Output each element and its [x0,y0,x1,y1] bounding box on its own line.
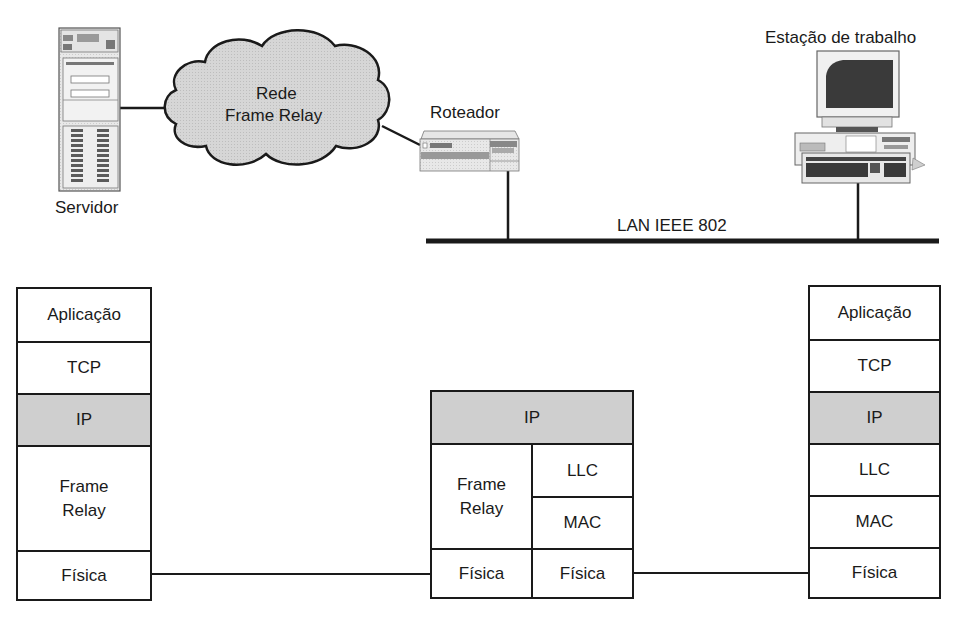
layer-frame-relay: Frame Relay [432,443,533,548]
layer-tcp: TCP [18,341,150,393]
layer-label: Frame Relay [59,475,108,523]
layer-label: TCP [858,354,892,378]
lan-label: LAN IEEE 802 [617,216,727,236]
server-tower-icon [59,28,120,191]
layer-ip: IP [18,393,150,445]
layer-label: Aplicação [47,303,121,327]
layer-application: Aplicação [810,287,939,339]
layer-mac: MAC [533,496,632,548]
layer-application: Aplicação [18,289,150,341]
layer-label: Física [61,564,106,588]
router-icon [420,131,519,171]
server-protocol-stack: Aplicação TCP IP Frame Relay Física [16,287,152,601]
workstation-icon [795,51,925,183]
workstation-protocol-stack: Aplicação TCP IP LLC MAC Física [808,285,941,599]
layer-label: LLC [859,458,890,482]
cloud-router-link [382,126,420,145]
layer-mac: MAC [810,495,939,547]
workstation-label: Estação de trabalho [765,28,916,48]
layer-tcp: TCP [810,339,939,391]
layer-label: IP [866,406,882,430]
layer-label: Aplicação [838,301,912,325]
layer-physical-fr: Física [432,548,533,597]
layer-label: Física [560,562,605,586]
layer-label: TCP [67,356,101,380]
layer-label: Física [459,562,504,586]
layer-physical: Física [810,547,939,597]
layer-label: IP [524,406,540,430]
cloud-label-line2: Frame Relay [225,106,322,126]
layer-physical: Física [18,550,150,599]
layer-physical-lan: Física [533,548,632,597]
layer-label: MAC [856,510,894,534]
server-label: Servidor [55,198,118,218]
layer-ip: IP [810,391,939,443]
layer-label: MAC [564,511,602,535]
router-label: Roteador [430,103,500,123]
layer-label: Frame Relay [457,473,506,521]
layer-frame-relay: Frame Relay [18,445,150,550]
layer-label: Física [852,561,897,585]
layer-llc: LLC [810,443,939,495]
layer-ip: IP [432,392,632,443]
cloud-label-line1: Rede [256,84,297,104]
layer-llc: LLC [533,443,632,496]
layer-label: LLC [567,459,598,483]
layer-label: IP [76,408,92,432]
router-protocol-stack: IP Frame Relay Física LLC MAC Física [430,390,634,599]
